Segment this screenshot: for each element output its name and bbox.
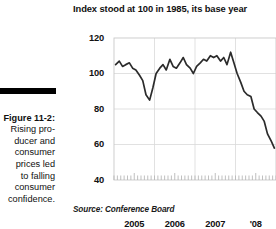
- x-axis-tick-label: 2007: [198, 219, 232, 229]
- figure-caption: Figure 11-2: Rising pro- ducer and consu…: [0, 101, 57, 205]
- figure-caption-block: Figure 11-2: Rising pro- ducer and consu…: [0, 88, 57, 205]
- y-axis-tick-label: 80: [78, 104, 104, 114]
- x-axis-tick-label: 2006: [158, 219, 192, 229]
- caption-rule-bar: [0, 88, 56, 94]
- y-axis-tick-label: 100: [78, 68, 104, 78]
- figure-page: Figure 11-2: Rising pro- ducer and consu…: [0, 0, 276, 229]
- plot-area: 120 100 80 60 40 2005 2006 2007 '08: [72, 33, 276, 185]
- x-axis-tick-label: 2005: [117, 219, 151, 229]
- y-axis-tick-label: 40: [78, 175, 104, 185]
- y-axis-tick-label: 60: [78, 139, 104, 149]
- chart-block: Index stood at 100 in 1985, its base yea…: [72, 0, 276, 229]
- figure-caption-text: Rising pro- ducer and consumer prices le…: [8, 124, 55, 204]
- chart-source-note: Source: Conference Board: [73, 205, 174, 214]
- x-axis-tick-label: '08: [239, 219, 273, 229]
- x-axis-labels: 2005 2006 2007 '08: [72, 219, 276, 229]
- y-axis-tick-label: 120: [78, 33, 104, 43]
- figure-label: Figure 11-2:: [3, 113, 55, 123]
- grid-layer: [114, 38, 276, 180]
- chart-title: Index stood at 100 in 1985, its base yea…: [73, 3, 273, 15]
